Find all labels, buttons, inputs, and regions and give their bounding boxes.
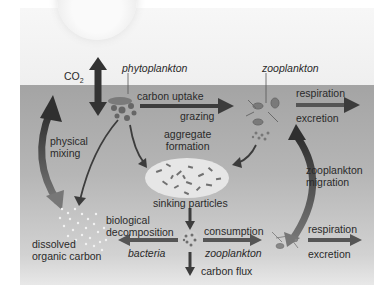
co2-label: CO2 [64, 70, 84, 87]
excretion-bottom-label: excretion [308, 248, 351, 260]
sinking-particles-label: sinking particles [153, 197, 228, 209]
grazing-label: grazing [180, 110, 214, 122]
aggregate-formation-label: aggregateformation [164, 128, 211, 152]
carbon-flux-label: carbon flux [201, 265, 252, 277]
co2-exchange-arrow [89, 57, 107, 116]
phytoplankton-label: phytoplankton [122, 62, 187, 74]
respiration-bottom-label: respiration [308, 223, 357, 235]
excretion-top-label: excretion [296, 112, 339, 124]
bacteria-label: bacteria [128, 247, 165, 259]
consumption-label: consumption [204, 225, 264, 237]
aggregate-particles-icon [145, 158, 229, 198]
dissolved-organic-carbon-label: dissolvedorganic carbon [32, 238, 101, 262]
zooplankton-cluster-icon [246, 98, 279, 141]
physical-mixing-label: physicalmixing [50, 135, 88, 159]
deep-particle-icon [181, 231, 199, 249]
biological-decomposition-label: biologicaldecomposition [106, 214, 174, 238]
zooplankton-migration-label: zooplanktonmigration [306, 164, 363, 188]
carbon-uptake-label: carbon uptake [137, 90, 204, 102]
zooplankton-top-label: zooplankton [262, 62, 319, 74]
zooplankton-bottom-label: zooplankton [205, 247, 262, 259]
phytoplankton-cluster-icon [108, 97, 137, 121]
respiration-top-label: respiration [296, 87, 345, 99]
